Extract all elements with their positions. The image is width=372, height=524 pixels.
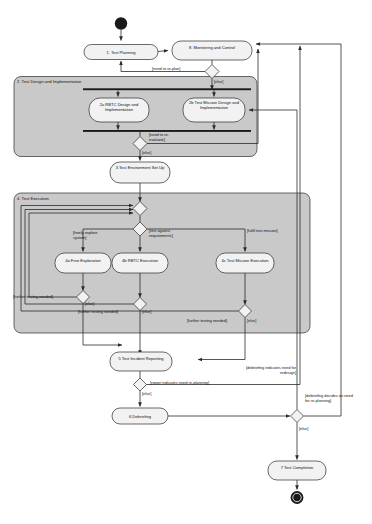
guard-else-exec-c: [else] [247,319,256,324]
activity-label-test-environment-setup: 3 Test Environment Set Up [110,165,170,170]
decision-node-after-reporting [134,378,147,391]
guard-further-testing-a: [further testing needed] [13,295,53,300]
guard-freely-explore-system: [freely explore system] [73,231,109,240]
guard-further-testing-c: [further testing needed] [187,319,227,324]
region-title-test-execution: 4. Test Execution [17,196,107,201]
guard-debriefing-redesign: [debriefing indicates need for redesign] [246,366,296,375]
activity-label-test-mission-execution: 4c Test Mission Execution [216,258,274,263]
guard-further-testing-b: [further testing needed] [78,310,118,315]
guard-debriefing-replanning: [debriefing decides on need for re-plann… [305,394,355,403]
activity-label-rbtc-design: 2a RBTC Design and Implementation [89,102,149,112]
guard-need-to-reevaluate: [need to re-evaluate] [149,133,183,142]
activity-node-test-incident-reporting-shape [110,352,172,371]
activity-label-test-completion: 7 Test Completion [268,465,326,470]
region-title-test-design: 2. Test Design and Implementation [17,79,87,84]
guard-fulfil-test-mission: [fulfil test mission] [247,229,281,234]
guard-else-after-report: [else] [142,392,151,397]
activity-diagram-canvas: 2. Test Design and Implementation 4. Tes… [0,0,372,524]
guard-report-indicates-replanning: [report indicates need re-planning] [150,381,209,386]
guard-else-after-replan: [else] [214,80,223,85]
activity-label-test-mission-design: 2b Test Mission Design and Implementatio… [183,100,245,110]
activity-node-test-completion-shape [268,461,326,480]
guard-else-exec-a: [else] [85,302,94,307]
decision-node-after-monitoring [205,60,219,79]
guard-else-after-reevaluate: [else] [142,151,151,156]
fork-bar-design [83,88,251,90]
activity-label-rbtc-execution: 4b RBTC Execution [112,258,168,263]
edge-planning-to-monitoring [158,51,168,52]
final-node [291,491,304,504]
initial-node [115,17,127,29]
activity-label-monitoring-and-control: 8. Monitoring and Control [172,45,252,50]
guard-need-to-replan: [need to re-plan] [152,67,180,72]
guard-else-after-debriefing: [else] [299,427,308,432]
activity-label-debriefing: 6 Debriefing [112,414,168,419]
decision-node-after-debriefing [291,410,304,423]
activity-label-free-exploration: 4a Free Exploration [55,258,111,263]
activity-label-test-planning: 1. Test Planning [84,50,158,55]
activity-label-test-incident-reporting: 5 Test Incident Reporting [110,356,172,361]
guard-else-exec-b: [else] [142,310,151,315]
guard-test-against-requirements: [test against requirements] [149,229,183,238]
